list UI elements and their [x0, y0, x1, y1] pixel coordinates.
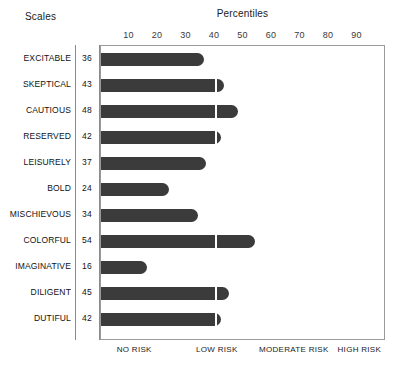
scale-value-imaginative: 16 — [82, 260, 92, 273]
x-tick-20: 20 — [152, 30, 162, 40]
scales-column-header: Scales — [25, 11, 56, 22]
bar-excitable — [101, 53, 204, 66]
plot-area — [100, 45, 385, 340]
percentiles-bar-chart: Scales Percentiles 102030405060708090 EX… — [0, 0, 399, 370]
scale-value-skeptical: 43 — [82, 78, 92, 91]
risk-band-labels: NO RISKLOW RISKMODERATE RISKHIGH RISK — [0, 345, 399, 359]
gridline-40 — [215, 46, 217, 339]
scale-label-imaginative: IMAGINATIVE — [0, 260, 71, 273]
scale-label-cautious: CAUTIOUS — [0, 104, 71, 117]
bar-imaginative — [101, 261, 147, 274]
bar-cautious — [101, 105, 238, 118]
scale-label-leisurely: LEISURELY — [0, 156, 71, 169]
scale-value-bold: 24 — [82, 182, 92, 195]
x-tick-90: 90 — [351, 30, 361, 40]
scale-value-dutiful: 42 — [82, 312, 92, 325]
x-tick-80: 80 — [323, 30, 333, 40]
x-tick-70: 70 — [294, 30, 304, 40]
scale-label-diligent: DILIGENT — [0, 286, 71, 299]
risk-band-no-risk: NO RISK — [117, 345, 152, 354]
scale-label-skeptical: SKEPTICAL — [0, 78, 71, 91]
scale-value-diligent: 45 — [82, 286, 92, 299]
scale-label-dutiful: DUTIFUL — [0, 312, 71, 325]
risk-band-high-risk: HIGH RISK — [338, 345, 382, 354]
label-divider-left — [75, 45, 76, 340]
scale-value-leisurely: 37 — [82, 156, 92, 169]
scale-value-colorful: 54 — [82, 234, 92, 247]
scale-label-excitable: EXCITABLE — [0, 52, 71, 65]
scale-label-colorful: COLORFUL — [0, 234, 71, 247]
x-tick-60: 60 — [266, 30, 276, 40]
x-tick-40: 40 — [209, 30, 219, 40]
scale-label-bold: BOLD — [0, 182, 71, 195]
x-tick-30: 30 — [180, 30, 190, 40]
bar-colorful — [101, 235, 255, 248]
bar-leisurely — [101, 157, 206, 170]
bar-skeptical — [101, 79, 224, 92]
chart-title: Percentiles — [100, 8, 385, 19]
scale-value-mischievous: 34 — [82, 208, 92, 221]
scale-label-mischievous: MISCHIEVOUS — [0, 208, 71, 221]
bar-reserved — [101, 131, 221, 144]
scale-label-reserved: RESERVED — [0, 130, 71, 143]
scale-value-cautious: 48 — [82, 104, 92, 117]
scale-value-excitable: 36 — [82, 52, 92, 65]
bar-diligent — [101, 287, 229, 300]
risk-band-moderate-risk: MODERATE RISK — [259, 345, 329, 354]
x-tick-10: 10 — [123, 30, 133, 40]
scale-label-column: EXCITABLE36SKEPTICAL43CAUTIOUS48RESERVED… — [0, 45, 100, 340]
scale-value-reserved: 42 — [82, 130, 92, 143]
bar-bold — [101, 183, 169, 196]
bar-dutiful — [101, 313, 221, 326]
bar-mischievous — [101, 209, 198, 222]
x-axis-tick-labels: 102030405060708090 — [0, 30, 399, 44]
risk-band-low-risk: LOW RISK — [196, 345, 238, 354]
x-tick-50: 50 — [237, 30, 247, 40]
